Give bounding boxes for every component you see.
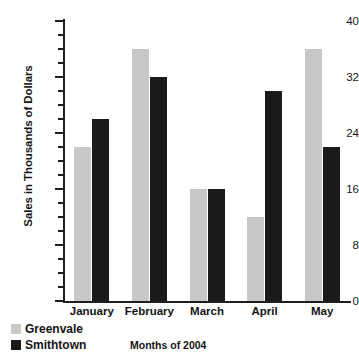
x-axis-label-march: March	[190, 305, 224, 317]
x-axis-title: Months of 2004	[130, 339, 310, 351]
legend-item-smithtown: Smithtown	[11, 337, 86, 353]
bar-greenvale-february	[132, 49, 149, 301]
bar-greenvale-march	[190, 189, 207, 301]
legend-label: Greenvale	[25, 323, 83, 335]
bar-smithtown-may	[323, 147, 340, 301]
bar-smithtown-february	[150, 77, 167, 301]
x-axis-label-february: February	[125, 305, 174, 317]
y-axis-title: Sales in Thousands of Dollars	[22, 21, 34, 271]
chart-legend: GreenvaleSmithtown	[11, 321, 86, 353]
bar-chart: Sales in Thousands of Dollars 0816243240…	[0, 0, 359, 358]
legend-label: Smithtown	[25, 339, 86, 351]
x-axis-label-may: May	[311, 305, 333, 317]
legend-swatch-icon	[11, 324, 21, 334]
bar-greenvale-january	[74, 147, 91, 301]
legend-item-greenvale: Greenvale	[11, 321, 86, 337]
plot-area	[63, 21, 351, 301]
bar-greenvale-may	[305, 49, 322, 301]
x-axis-label-january: January	[70, 305, 114, 317]
x-axis-line	[63, 301, 351, 303]
x-axis-label-april: April	[251, 305, 277, 317]
bar-smithtown-april	[265, 91, 282, 301]
bar-smithtown-march	[208, 189, 225, 301]
bar-smithtown-january	[92, 119, 109, 301]
bar-greenvale-april	[247, 217, 264, 301]
legend-swatch-icon	[11, 340, 21, 350]
